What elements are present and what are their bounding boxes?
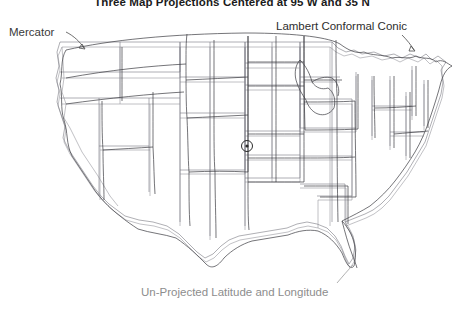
mercator-leader-arrowhead: [79, 44, 85, 49]
lambert-leader-arrowhead: [409, 46, 415, 51]
projection-center-dot: [245, 144, 248, 147]
mercator-leader-line: [66, 32, 84, 48]
annotation-layer: [0, 0, 464, 309]
figure-container: Three Map Projections Centered at 95 W a…: [0, 0, 464, 309]
annotation-unprojected-label: Un-Projected Latitude and Longitude: [141, 286, 328, 299]
annotation-lambert-label: Lambert Conformal Conic: [276, 20, 407, 33]
unprojected-leader-line: [337, 265, 353, 283]
annotation-mercator-label: Mercator: [9, 26, 54, 39]
